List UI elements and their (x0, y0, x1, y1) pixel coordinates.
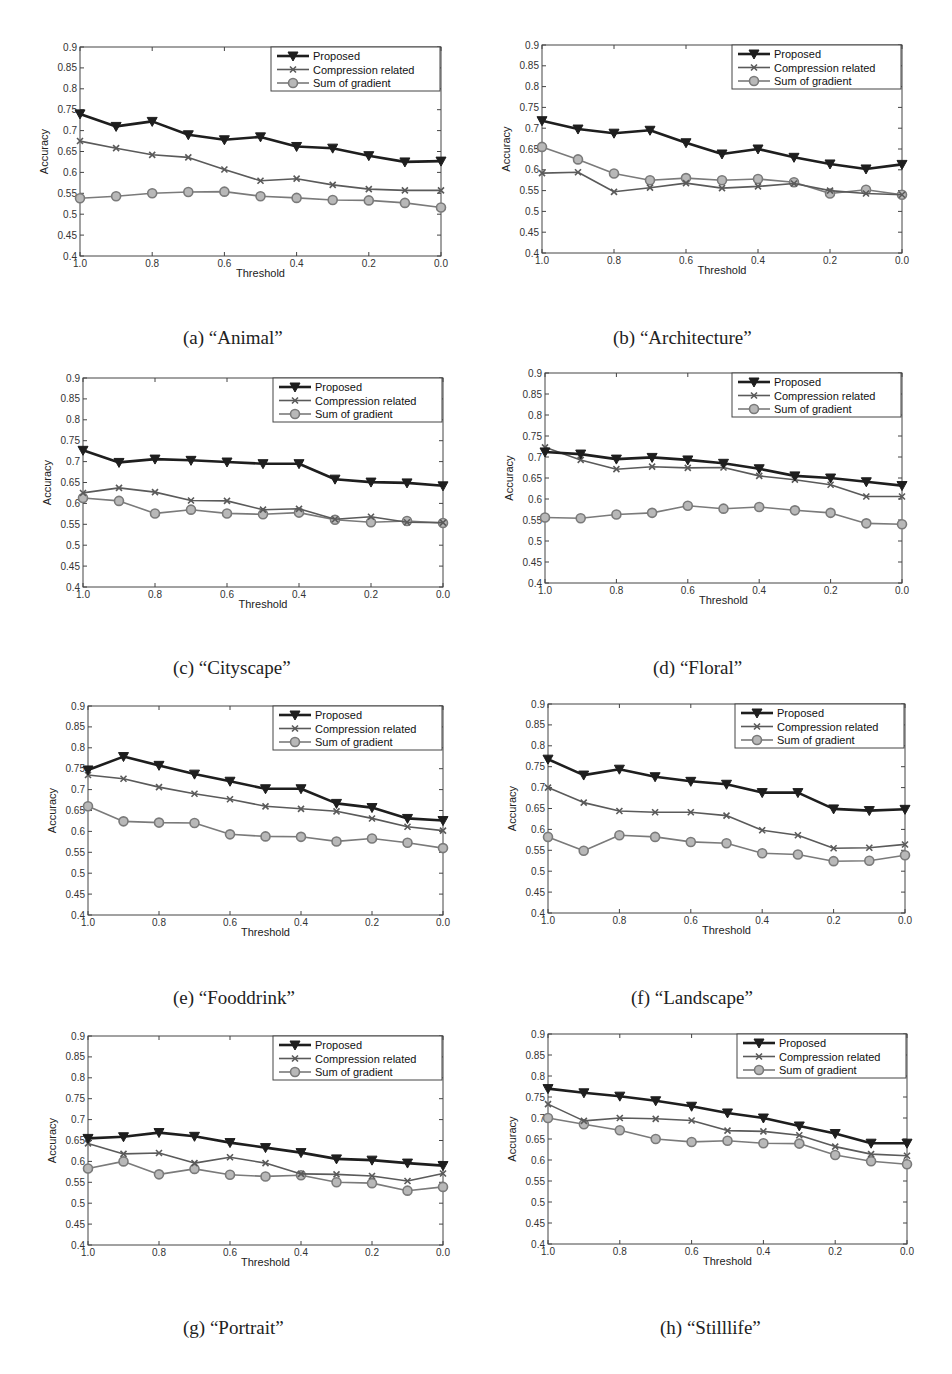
circle-marker-icon (723, 1136, 732, 1145)
x-tick-label: 0.2 (828, 1246, 842, 1257)
x-tick-label: 1.0 (541, 1246, 555, 1257)
circle-marker-icon (651, 1135, 660, 1144)
y-tick-label: 0.8 (531, 1071, 545, 1082)
legend-label: Compression related (779, 1051, 881, 1063)
x-axis-label: Threshold (703, 1255, 752, 1267)
circle-marker-icon (759, 1139, 768, 1148)
y-tick-label: 0.45 (526, 1218, 546, 1229)
y-tick-label: 0.55 (526, 1176, 546, 1187)
circle-marker-icon (615, 1126, 624, 1135)
circle-marker-icon (755, 1066, 764, 1075)
x-tick-label: 0.4 (756, 1246, 770, 1257)
y-tick-label: 0.9 (531, 1029, 545, 1040)
series-sum-of-gradient (544, 1114, 912, 1169)
x-tick-label: 0.0 (900, 1246, 914, 1257)
y-tick-label: 0.75 (526, 1092, 546, 1103)
circle-marker-icon (903, 1160, 912, 1169)
caption-stilllife: (h) “Stilllife” (660, 1317, 761, 1339)
y-tick-label: 0.65 (526, 1134, 546, 1145)
panel-stilllife: 0.40.450.50.550.60.650.70.750.80.850.91.… (0, 0, 952, 1294)
legend-label: Sum of gradient (779, 1064, 857, 1076)
legend: ProposedCompression relatedSum of gradie… (737, 1034, 906, 1078)
legend-label: Proposed (779, 1037, 826, 1049)
y-axis-label: Accuracy (506, 1116, 518, 1162)
y-tick-label: 0.85 (526, 1050, 546, 1061)
circle-marker-icon (831, 1150, 840, 1159)
circle-marker-icon (544, 1114, 553, 1123)
y-tick-label: 0.5 (531, 1197, 545, 1208)
line-chart: 0.40.450.50.550.60.650.70.750.80.850.91.… (0, 0, 952, 1290)
circle-marker-icon (795, 1139, 804, 1148)
caption-portrait: (g) “Portrait” (183, 1317, 284, 1339)
circle-marker-icon (867, 1157, 876, 1166)
y-tick-label: 0.6 (531, 1155, 545, 1166)
x-tick-label: 0.8 (613, 1246, 627, 1257)
x-tick-label: 0.6 (685, 1246, 699, 1257)
circle-marker-icon (687, 1137, 696, 1146)
